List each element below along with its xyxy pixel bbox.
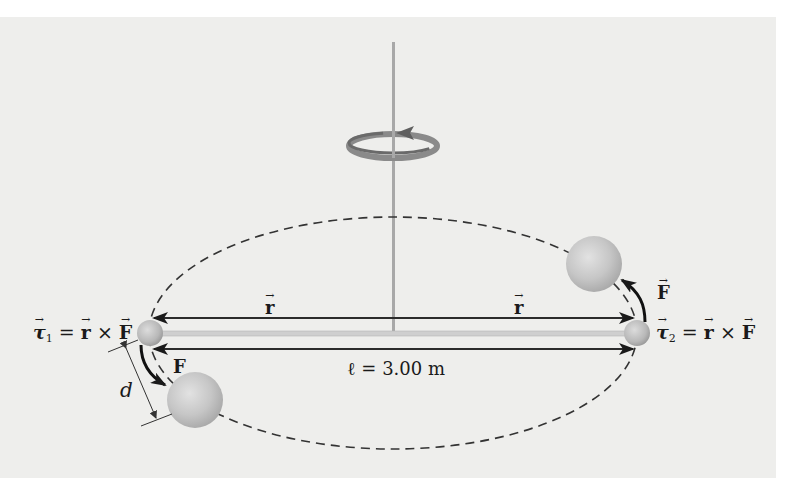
tau1-equals: = [59, 321, 75, 343]
mass-left [137, 320, 163, 346]
rotation-axis-pole [392, 42, 395, 333]
r-vector-right-label: r [514, 299, 523, 317]
rod [150, 331, 637, 336]
tau2-symbol: τ [656, 323, 669, 342]
d-tick-bottom [141, 414, 172, 426]
tau1-times: × [97, 321, 113, 343]
force-left-label: F [173, 358, 186, 376]
tau2-times: × [720, 321, 736, 343]
distance-d-label: d [120, 380, 133, 400]
rod-length-label: ℓ = 3.00 m [347, 360, 445, 378]
tau1-subscript: 1 [46, 332, 53, 345]
tau1-r: r [81, 323, 91, 342]
rotation-direction-icon [349, 124, 437, 158]
force-right-label: F [657, 284, 670, 302]
tau2-subscript: 2 [669, 332, 676, 345]
mass-upper-right-position [566, 236, 622, 292]
mass-right [624, 320, 650, 346]
tau2-F: F [742, 323, 756, 342]
torque-1-label: τ1 = r × F [33, 323, 132, 344]
tau1-symbol: τ [33, 323, 46, 342]
tau1-F: F [119, 323, 133, 342]
torque-2-label: τ2 = r × F [656, 323, 755, 344]
diagram-svg [0, 0, 786, 478]
mass-lower-left-position [167, 372, 223, 428]
force-arrow-left [141, 345, 165, 385]
tau2-equals: = [682, 321, 698, 343]
r-vector-left-label: r [265, 299, 274, 317]
tau2-r: r [704, 323, 714, 342]
